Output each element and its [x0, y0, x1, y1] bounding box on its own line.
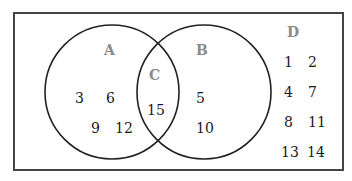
intersection-label: C	[149, 67, 160, 83]
universal-element: 14	[307, 144, 325, 160]
set-a-element: 3	[75, 90, 84, 106]
set-b-label: B	[196, 42, 208, 58]
set-b-element: 10	[196, 120, 214, 136]
universal-set-label: D	[287, 24, 299, 40]
set-b-element: 5	[196, 90, 205, 106]
universal-element: 11	[308, 114, 326, 130]
set-a-element: 12	[115, 120, 133, 136]
universal-element: 13	[281, 144, 299, 160]
set-a-element: 6	[106, 90, 115, 106]
universal-element: 7	[308, 84, 317, 100]
venn-diagram: A C B D 3 6 9 12 15 5 10 1 2 4 7 8 11 13…	[0, 0, 352, 181]
set-a-element: 9	[91, 120, 100, 136]
universal-element: 8	[284, 114, 293, 130]
set-a-label: A	[103, 42, 116, 58]
intersection-element: 15	[147, 102, 165, 118]
universal-element: 2	[308, 54, 317, 70]
universal-element: 1	[284, 54, 293, 70]
universal-element: 4	[284, 84, 293, 100]
